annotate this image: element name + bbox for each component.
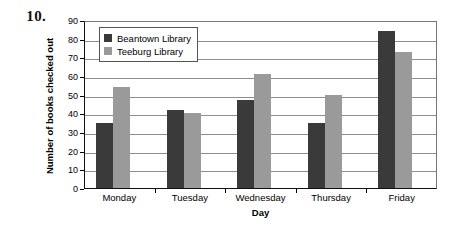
bar-wednesday-0 — [237, 100, 254, 188]
bar-thursday-0 — [308, 123, 325, 188]
legend-label: Beantown Library — [117, 33, 191, 44]
bar-thursday-1 — [325, 95, 342, 188]
bar-group — [226, 22, 297, 188]
y-axis-tick-labels: 0102030405060708090 — [58, 21, 78, 189]
legend-item: Beantown Library — [104, 32, 191, 44]
y-tick-label: 30 — [68, 128, 78, 138]
x-tick-label: Thursday — [311, 192, 351, 203]
y-tick-mark — [80, 96, 84, 97]
legend-swatch-icon — [104, 34, 112, 42]
y-tick-mark — [80, 133, 84, 134]
y-tick-mark — [80, 189, 84, 190]
x-axis-tick-labels: MondayTuesdayWednesdayThursdayFriday — [84, 192, 437, 206]
x-tick-label: Monday — [102, 192, 136, 203]
bar-monday-0 — [96, 123, 113, 188]
bar-group — [297, 22, 368, 188]
y-tick-mark — [80, 170, 84, 171]
y-tick-label: 70 — [68, 53, 78, 63]
bar-friday-0 — [378, 31, 395, 188]
bar-chart-figure: Number of books checked out 010203040506… — [46, 10, 451, 229]
bar-friday-1 — [395, 52, 412, 188]
x-axis-title: Day — [84, 207, 437, 218]
x-tick-mark — [155, 189, 156, 193]
y-tick-label: 40 — [68, 109, 78, 119]
y-tick-mark — [80, 114, 84, 115]
y-tick-label: 50 — [68, 91, 78, 101]
x-tick-label: Friday — [388, 192, 414, 203]
bar-monday-1 — [113, 87, 130, 188]
bar-tuesday-0 — [167, 110, 184, 188]
y-tick-mark — [80, 58, 84, 59]
x-tick-mark — [296, 189, 297, 193]
y-tick-label: 90 — [68, 16, 78, 26]
x-tick-label: Wednesday — [236, 192, 286, 203]
bar-tuesday-1 — [184, 113, 201, 188]
y-axis-title: Number of books checked out — [43, 20, 57, 192]
x-tick-mark — [225, 189, 226, 193]
bar-wednesday-1 — [254, 74, 271, 188]
y-tick-label: 20 — [68, 147, 78, 157]
problem-number: 10. — [10, 8, 46, 25]
y-tick-label: 80 — [68, 35, 78, 45]
x-tick-label: Tuesday — [172, 192, 208, 203]
y-tick-mark — [80, 77, 84, 78]
y-tick-label: 0 — [73, 184, 78, 194]
y-tick-label: 60 — [68, 72, 78, 82]
bar-group — [367, 22, 438, 188]
x-tick-mark — [366, 189, 367, 193]
y-tick-mark — [80, 152, 84, 153]
y-tick-label: 10 — [68, 165, 78, 175]
legend-item: Teeburg Library — [104, 45, 191, 57]
legend-label: Teeburg Library — [117, 46, 183, 57]
chart-legend: Beantown LibraryTeeburg Library — [99, 27, 198, 62]
plot-area: Beantown LibraryTeeburg Library — [84, 21, 437, 189]
y-tick-mark — [80, 40, 84, 41]
y-tick-mark — [80, 21, 84, 22]
legend-swatch-icon — [104, 47, 112, 55]
